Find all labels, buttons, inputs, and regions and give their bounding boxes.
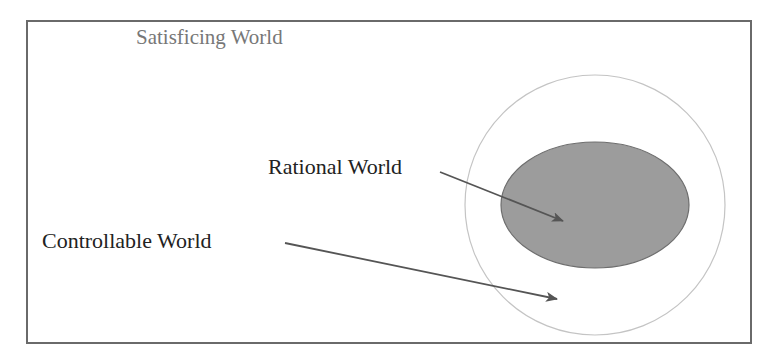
rational-world-label: Rational World bbox=[268, 154, 402, 180]
controllable-world-arrow bbox=[285, 243, 557, 299]
controllable-world-label: Controllable World bbox=[42, 228, 212, 254]
satisficing-world-label: Satisficing World bbox=[136, 25, 283, 50]
rational-world-ellipse bbox=[501, 142, 689, 268]
diagram-shapes bbox=[0, 0, 767, 361]
